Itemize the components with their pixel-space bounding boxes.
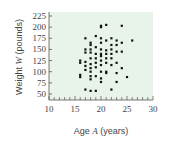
svg-text:20: 20 [97,104,107,114]
svg-text:150: 150 [33,44,47,54]
svg-text:30: 30 [149,104,159,114]
data-point [100,77,102,79]
svg-text:125: 125 [33,56,47,66]
data-point [121,25,123,27]
data-point [84,65,86,67]
data-point [116,81,118,83]
data-point [95,90,97,92]
data-point [90,48,92,50]
data-point [95,46,97,48]
data-point [79,76,81,78]
data-point [95,53,97,55]
data-point [84,48,86,50]
data-point [110,37,112,39]
data-point [95,62,97,64]
svg-text:75: 75 [37,78,47,88]
data-point [121,67,123,69]
data-point [105,24,107,26]
data-point [131,39,133,41]
svg-text:225: 225 [33,11,47,21]
data-point [110,44,112,46]
data-point [84,61,86,63]
data-point [110,64,112,66]
data-point [100,64,102,66]
data-point [84,69,86,71]
data-point [121,51,123,53]
data-point [116,39,118,41]
data-point [105,62,107,64]
data-point [79,59,81,61]
data-point [100,26,102,28]
data-point [100,48,102,50]
svg-text:10: 10 [45,104,55,114]
data-point [126,76,128,78]
data-point [105,49,107,51]
data-point [100,59,102,61]
svg-text:175: 175 [33,33,47,43]
data-point [100,81,102,83]
data-point [110,48,112,50]
data-point [95,66,97,68]
data-point [110,57,112,59]
data-point [90,71,92,73]
data-point [84,37,86,39]
data-point [79,62,81,64]
svg-text:25: 25 [123,104,133,114]
data-point [90,75,92,77]
data-point [110,88,112,90]
data-point [95,57,97,59]
data-point [90,90,92,92]
svg-text:200: 200 [33,22,47,32]
data-point [116,44,118,46]
data-point [105,39,107,41]
svg-text:50: 50 [37,89,47,99]
data-point [116,62,118,64]
data-point [105,57,107,59]
data-point [100,42,102,44]
data-point [110,53,112,55]
data-point [100,55,102,57]
data-point [105,53,107,55]
data-point [100,53,102,55]
data-point [90,42,92,44]
data-point [90,44,92,46]
data-point [90,51,92,53]
y-axis-label: Weight W (pounds) [14,19,24,95]
data-point [121,42,123,44]
data-point [95,75,97,77]
data-point [90,63,92,65]
data-point [79,74,81,76]
x-axis-label: Age A (years) [74,126,129,136]
data-point [100,71,102,73]
data-point [95,35,97,37]
data-point [90,57,92,59]
data-point [116,51,118,53]
data-point [90,78,92,80]
svg-text:100: 100 [33,67,47,77]
svg-text:15: 15 [71,104,81,114]
data-point [84,88,86,90]
data-point [100,37,102,39]
data-point [116,72,118,74]
scatter-chart: 5075100125150175200225 1015202530 Age A … [0,0,171,141]
data-point [105,72,107,74]
data-point [84,51,86,53]
data-point [90,67,92,69]
